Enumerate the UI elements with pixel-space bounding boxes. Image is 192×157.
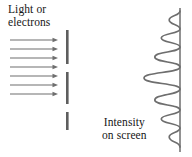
intensity-curve <box>144 11 180 147</box>
intensity-label-line-1: Intensity <box>102 116 147 129</box>
intensity-label-line-2: on screen <box>102 129 147 142</box>
screen-and-intensity-group <box>0 0 192 157</box>
intensity-label: Intensity on screen <box>102 116 147 141</box>
double-slit-figure: Light or electrons Intensity on screen <box>0 0 192 157</box>
